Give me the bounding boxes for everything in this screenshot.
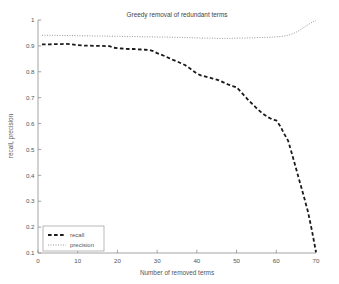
x-tick-label: 40 xyxy=(193,257,200,264)
x-tick-label: 10 xyxy=(74,257,81,264)
y-tick-label: 0.1 xyxy=(26,249,35,256)
x-axis-label: Number of removed terms xyxy=(140,269,214,276)
y-tick-label: 0.8 xyxy=(26,68,35,75)
y-tick-label: 0.9 xyxy=(26,42,35,49)
y-axis-ticks xyxy=(38,20,41,253)
y-tick-label: 0.5 xyxy=(26,146,35,153)
y-tick-label: 0.4 xyxy=(26,172,35,179)
chart-title: Greedy removal of redundant terms xyxy=(127,11,228,19)
figure-container: 010203040506070 0.10.20.30.40.50.60.70.8… xyxy=(0,0,339,284)
x-tick-label: 60 xyxy=(273,257,280,264)
legend-label-recall: recall xyxy=(70,232,84,238)
legend-label-precision: precision xyxy=(70,242,94,248)
chart-canvas: 010203040506070 0.10.20.30.40.50.60.70.8… xyxy=(0,0,339,284)
data-series-layer xyxy=(42,21,316,253)
y-tick-label: 0.2 xyxy=(26,223,35,230)
y-tick-label: 1 xyxy=(31,16,35,23)
x-axis-tick-labels: 010203040506070 xyxy=(36,257,320,264)
y-axis-label: recall, precision xyxy=(7,113,15,158)
plot-frame xyxy=(38,20,316,253)
x-tick-label: 20 xyxy=(114,257,121,264)
chart-legend: recallprecision xyxy=(43,226,104,251)
x-tick-label: 30 xyxy=(154,257,161,264)
x-tick-label: 50 xyxy=(233,257,240,264)
y-tick-label: 0.3 xyxy=(26,197,35,204)
series-line-recall xyxy=(42,44,316,252)
y-axis-tick-labels: 0.10.20.30.40.50.60.70.80.91 xyxy=(26,16,35,256)
x-tick-label: 70 xyxy=(313,257,320,264)
x-tick-label: 0 xyxy=(36,257,40,264)
y-tick-label: 0.7 xyxy=(26,94,35,101)
series-line-precision xyxy=(42,21,316,39)
y-tick-label: 0.6 xyxy=(26,120,35,127)
